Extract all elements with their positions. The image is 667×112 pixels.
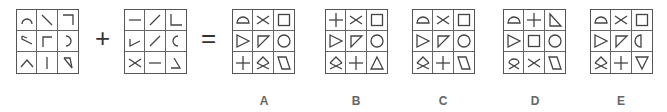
option-c-cell-triangle-right-icon xyxy=(413,31,433,52)
option-d-cell-x-cross-icon xyxy=(524,52,544,73)
equals-operator: = xyxy=(201,28,216,48)
option-a-cell-semicircle-icon xyxy=(233,10,253,31)
grid2-cell-horizontal-line-icon xyxy=(125,10,145,31)
option-d-cell-right-triangle-b-icon xyxy=(545,10,565,31)
option-e-cell-square-icon xyxy=(632,10,652,31)
option-b-cell-right-triangle-icon xyxy=(346,31,366,52)
option-e-grid[interactable] xyxy=(590,9,653,74)
option-c-cell-diamond-x-icon xyxy=(413,52,433,73)
option-b-cell-x-cross-icon xyxy=(346,10,366,31)
option-c-label: C xyxy=(433,94,453,108)
option-e-cell-plus-icon xyxy=(611,52,631,73)
option-c-cell-circle-icon xyxy=(454,31,474,52)
grid2-cell-x-cross-icon xyxy=(125,52,145,73)
grid1-cell-arc-top-icon xyxy=(17,10,37,31)
grid1-cell-caret-up-icon xyxy=(17,52,37,73)
option-a-grid[interactable] xyxy=(232,9,295,74)
option-a-cell-circle-icon xyxy=(274,31,294,52)
option-d-cell-circle-icon xyxy=(545,31,565,52)
option-a-cell-parallelogram-icon xyxy=(274,52,294,73)
option-a-cell-right-triangle-icon xyxy=(253,31,273,52)
option-d-label: D xyxy=(525,94,545,108)
grid2-cell-diag-up-icon xyxy=(145,31,165,52)
option-b-cell-plus-icon xyxy=(346,52,366,73)
grid1-cell-arc-right-icon xyxy=(58,31,78,52)
grid-2 xyxy=(124,9,187,74)
grid2-cell-arc-left-icon xyxy=(166,31,186,52)
option-e-label: E xyxy=(611,94,631,108)
grid2-cell-horizontal-line-icon xyxy=(145,52,165,73)
option-d-cell-plus-icon xyxy=(524,10,544,31)
option-e-cell-semicircle-icon xyxy=(591,10,611,31)
option-a-label: A xyxy=(254,94,274,108)
grid2-cell-diag-up-icon xyxy=(145,10,165,31)
grid1-cell-corner-top-right-icon xyxy=(58,10,78,31)
grid1-cell-vertical-line-icon xyxy=(37,52,57,73)
option-b-cell-circle-icon xyxy=(367,31,387,52)
option-c-cell-parallelogram-icon xyxy=(454,52,474,73)
option-e-cell-right-triangle-icon xyxy=(611,31,631,52)
option-d-cell-triangle-right-icon xyxy=(504,31,524,52)
option-c-cell-x-cross-icon xyxy=(433,10,453,31)
option-a-cell-x-cross-icon xyxy=(253,10,273,31)
option-a-cell-triangle-right-icon xyxy=(233,31,253,52)
option-c-cell-plus-icon xyxy=(433,52,453,73)
grid2-cell-corner-bottom-left-icon xyxy=(166,10,186,31)
option-b-cell-triangle-right-icon xyxy=(326,31,346,52)
grid-1 xyxy=(16,9,79,74)
option-c-cell-semicircle-icon xyxy=(413,10,433,31)
option-c-cell-right-triangle-icon xyxy=(433,31,453,52)
option-d-cell-square-icon xyxy=(524,31,544,52)
option-b-cell-square-icon xyxy=(367,10,387,31)
option-e-cell-half-circle-right-icon xyxy=(632,31,652,52)
option-b-cell-triangle-up-icon xyxy=(367,52,387,73)
grid1-cell-diag-down-icon xyxy=(37,10,57,31)
option-d-cell-semicircle-icon xyxy=(504,10,524,31)
option-d-cell-parallelogram-icon xyxy=(545,52,565,73)
plus-operator: + xyxy=(95,28,110,48)
option-b-label: B xyxy=(346,94,366,108)
option-b-grid[interactable] xyxy=(325,9,388,74)
grid1-cell-angle-slash-icon xyxy=(58,52,78,73)
option-d-grid[interactable] xyxy=(503,9,566,74)
option-d-cell-loop-x-icon xyxy=(504,52,524,73)
option-b-cell-diamond-x-icon xyxy=(326,52,346,73)
option-a-cell-square-icon xyxy=(274,10,294,31)
option-c-grid[interactable] xyxy=(412,9,475,74)
grid1-cell-angle-left-icon xyxy=(17,31,37,52)
grid2-cell-check-angle-icon xyxy=(125,31,145,52)
option-c-cell-square-icon xyxy=(454,10,474,31)
option-b-cell-plus-icon xyxy=(326,10,346,31)
option-a-cell-plus-icon xyxy=(233,52,253,73)
grid2-cell-angle-bottom-right-icon xyxy=(166,52,186,73)
option-e-cell-triangle-right-icon xyxy=(591,31,611,52)
option-e-cell-diamond-x-icon xyxy=(591,52,611,73)
option-e-cell-x-cross-icon xyxy=(611,10,631,31)
option-a-cell-diamond-x-icon xyxy=(253,52,273,73)
grid1-cell-corner-top-left-icon xyxy=(37,31,57,52)
option-e-cell-triangle-down-icon xyxy=(632,52,652,73)
